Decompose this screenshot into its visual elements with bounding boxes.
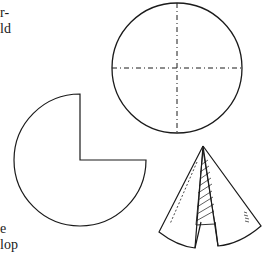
cone-icon <box>159 146 261 248</box>
three-quarter-circle-icon <box>14 94 146 226</box>
circle-crosshair-icon <box>112 3 242 133</box>
